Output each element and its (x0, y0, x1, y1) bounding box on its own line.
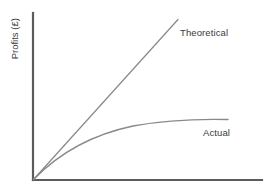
theoretical-series-line (34, 20, 179, 180)
actual-series-curve (34, 119, 229, 179)
actual-series-label: Actual (203, 128, 230, 138)
profits-chart-figure: Profits (£) Theoretical Actual (0, 0, 266, 194)
y-axis-label: Profits (£) (10, 16, 20, 62)
theoretical-series-label: Theoretical (180, 28, 228, 38)
